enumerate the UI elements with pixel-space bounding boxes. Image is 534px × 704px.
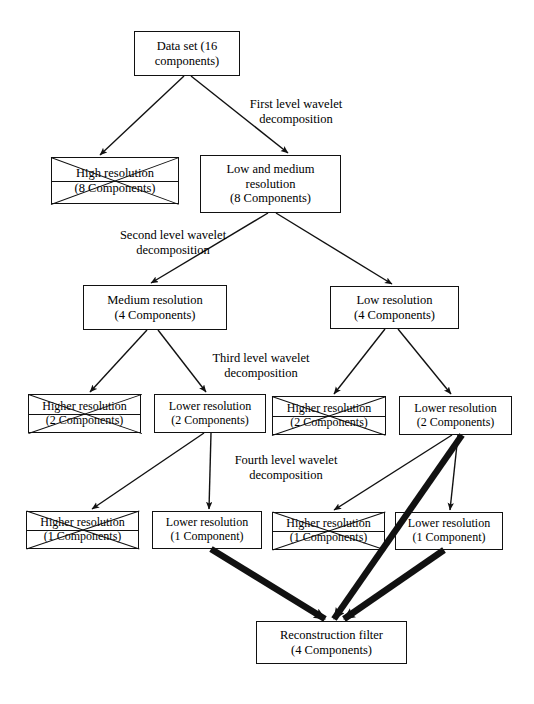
node-higher-resolution-2-b[interactable]: Higher resolution(2 Components) [272,396,386,435]
node-lower-resolution-2-b[interactable]: Lower resolution(2 Components) [399,396,512,435]
edge-label-first-level-line2: decomposition [216,112,376,127]
edge-low-to-higher2b [334,329,385,394]
node-medium-resolution-4-line1: Medium resolution [107,293,202,308]
node-high-resolution-8-line1: High resolution [76,166,154,181]
node-low-resolution-4-line2: (4 Components) [354,308,435,323]
node-low-medium-resolution-8[interactable]: Low and mediumresolution(8 Components) [200,155,341,213]
node-reconstruction-filter-line1: Reconstruction filter [280,628,383,643]
node-low-resolution-4-line1: Low resolution [356,293,432,308]
edge-lower2b-to-lower1b [450,435,458,510]
node-lower-resolution-1-a-line2: (1 Component) [171,530,244,544]
edge-low-to-lower2b [398,329,451,394]
node-lower-resolution-1-b-line1: Lower resolution [408,517,490,531]
node-lower-resolution-1-b-line2: (1 Component) [413,531,486,545]
node-higher-resolution-2-b-line2: (2 Components) [290,416,368,430]
edge-label-third-level-line2: decomposition [181,366,341,381]
node-lower-resolution-2-b-line1: Lower resolution [414,402,496,416]
node-reconstruction-filter-line2: (4 Components) [291,643,372,658]
edge-label-third-level-line1: Third level wavelet [181,351,341,366]
node-higher-resolution-2-a-line2: (2 Components) [46,414,124,428]
node-high-resolution-8[interactable]: High resolution(8 Components) [51,157,179,204]
node-data-set-line1: Data set (16 [157,39,217,54]
node-lower-resolution-2-a-line2: (2 Components) [171,414,249,428]
edge-lower1a-to-reconstruct [211,549,325,619]
node-lower-resolution-2-a[interactable]: Lower resolution(2 Components) [154,394,266,433]
edge-label-first-level: First level waveletdecomposition [216,97,376,127]
node-higher-resolution-1-b[interactable]: Higher resolution(1 Components) [272,512,385,550]
edge-label-second-level-line2: decomposition [88,243,258,258]
node-high-resolution-8-line2: (8 Components) [75,181,156,196]
edge-label-first-level-line1: First level wavelet [216,97,376,112]
edge-medium-to-higher2a [90,330,147,392]
edge-lowmedium-to-low [276,213,392,284]
node-higher-resolution-2-b-line1: Higher resolution [287,402,371,416]
node-higher-resolution-1-b-line1: Higher resolution [286,517,370,531]
node-low-medium-resolution-8-line2: resolution [246,177,296,192]
node-lower-resolution-2-b-line2: (2 Components) [417,416,495,430]
node-higher-resolution-2-a[interactable]: Higher resolution(2 Components) [28,394,141,433]
edge-dataset-to-high [100,76,184,155]
node-medium-resolution-4-line2: (4 Components) [115,308,196,323]
edge-label-second-level-line1: Second level wavelet [88,228,258,243]
edge-lower2a-to-higher1a [92,433,204,509]
edge-label-second-level: Second level waveletdecomposition [88,228,258,258]
node-medium-resolution-4[interactable]: Medium resolution(4 Components) [83,285,227,330]
node-reconstruction-filter[interactable]: Reconstruction filter(4 Components) [256,621,407,664]
node-low-resolution-4[interactable]: Low resolution(4 Components) [330,286,459,329]
node-lower-resolution-2-a-line1: Lower resolution [169,400,251,414]
node-low-medium-resolution-8-line1: Low and medium [226,162,314,177]
edge-label-fourth-level-line2: decomposition [203,468,369,483]
node-lower-resolution-1-a[interactable]: Lower resolution(1 Component) [152,511,262,549]
node-higher-resolution-1-a-line1: Higher resolution [40,516,124,530]
node-lower-resolution-1-a-line1: Lower resolution [166,516,248,530]
node-low-medium-resolution-8-line3: (8 Components) [230,191,311,206]
edge-label-fourth-level-line1: Fourth level wavelet [203,453,369,468]
node-data-set-line2: components) [155,54,220,69]
node-lower-resolution-1-b[interactable]: Lower resolution(1 Component) [395,512,503,550]
edge-label-third-level: Third level waveletdecomposition [181,351,341,381]
diagram-canvas: Data set (16components)High resolution(8… [0,0,534,704]
edge-label-fourth-level: Fourth level waveletdecomposition [203,453,369,483]
node-higher-resolution-1-b-line2: (1 Components) [290,531,368,545]
node-higher-resolution-1-a-line2: (1 Components) [44,530,122,544]
node-higher-resolution-1-a[interactable]: Higher resolution(1 Components) [26,511,139,549]
edge-lower1b-to-reconstruct [344,550,444,619]
node-higher-resolution-2-a-line1: Higher resolution [42,400,126,414]
node-data-set[interactable]: Data set (16components) [134,31,240,76]
